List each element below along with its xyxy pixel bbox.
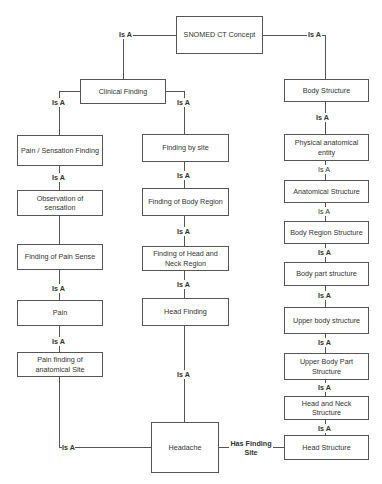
edge-label-is-a: Is A bbox=[52, 98, 65, 107]
node-body-region-structure: Body Region Structure bbox=[284, 221, 369, 244]
node-body-part-structure: Body part structure bbox=[284, 262, 369, 286]
edge-label-is-a: Is A bbox=[177, 280, 190, 289]
edge-line bbox=[325, 35, 326, 79]
edge-label-is-a: Is A bbox=[118, 30, 133, 39]
node-observation-of-sensation: Observation of sensation bbox=[17, 190, 103, 216]
node-upper-body-structure: Upper body structure bbox=[284, 307, 369, 334]
edge-label-is-a: Is A bbox=[318, 207, 330, 216]
node-finding-of-head-and-neck-region: Finding of Head and Neck Region bbox=[142, 246, 229, 271]
node-body-structure: Body Structure bbox=[284, 79, 369, 102]
edge-label-is-a: Is A bbox=[316, 113, 329, 122]
edge-label-is-a: Is A bbox=[177, 370, 190, 379]
edge-label-is-a: Is A bbox=[318, 338, 331, 347]
node-head-finding: Head Finding bbox=[142, 298, 229, 326]
edge-label-is-a: Is A bbox=[52, 337, 65, 346]
edge-line bbox=[123, 35, 124, 79]
node-headache: Headache bbox=[151, 422, 219, 473]
node-anatomical-structure: Anatomical Structure bbox=[284, 180, 369, 203]
edge-line bbox=[219, 447, 229, 448]
edge-line bbox=[59, 216, 60, 244]
node-pain-sensation-finding: Pain / Sensation Finding bbox=[17, 135, 103, 166]
edge-label-is-a: Is A bbox=[177, 171, 190, 180]
node-head-structure: Head Structure bbox=[284, 435, 369, 460]
edge-label-is-a: Is A bbox=[318, 291, 331, 300]
node-pain: Pain bbox=[17, 300, 103, 326]
edge-line bbox=[59, 377, 60, 448]
node-finding-of-pain-sense: Finding of Pain Sense bbox=[17, 244, 103, 270]
node-pain-finding-of-anatomical-site: Pain finding of anatomical Site bbox=[17, 352, 103, 377]
node-head-and-neck-structure: Head and Neck Structure bbox=[284, 396, 369, 420]
edge-label-is-a: Is A bbox=[318, 424, 331, 433]
edge-label-is-a: Is A bbox=[318, 248, 331, 257]
edge-label-has-finding-site: Has Finding Site bbox=[229, 440, 273, 457]
node-clinical-finding: Clinical Finding bbox=[80, 79, 166, 104]
node-upper-body-part-structure: Upper Body Part Structure bbox=[284, 353, 369, 380]
edge-label-is-a: Is A bbox=[62, 443, 75, 452]
edge-label-is-a: Is A bbox=[318, 165, 330, 174]
node-snomed-ct-concept: SNOMED CT Concept bbox=[176, 16, 263, 54]
node-physical-anatomical-entity: Physical anatomical entity bbox=[284, 134, 369, 161]
edge-line bbox=[273, 447, 284, 448]
edge-line bbox=[59, 91, 80, 92]
edge-label-is-a: Is A bbox=[307, 30, 322, 39]
edge-label-is-a: Is A bbox=[52, 173, 65, 182]
node-finding-of-body-region: Finding of Body Region bbox=[142, 188, 229, 216]
node-finding-by-site: Finding by site bbox=[142, 134, 229, 162]
edge-label-is-a: Is A bbox=[52, 284, 65, 293]
edge-label-is-a: Is A bbox=[177, 227, 190, 236]
edge-line bbox=[165, 91, 185, 92]
edge-label-is-a: Is A bbox=[318, 383, 331, 392]
edge-label-is-a: Is A bbox=[177, 98, 190, 107]
